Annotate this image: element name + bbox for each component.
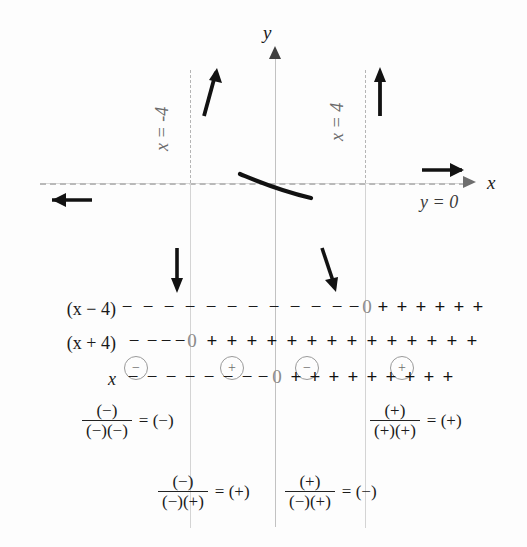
fraction-body: (+) (−)(+): [285, 473, 335, 512]
fraction-region-3: (+) (−)(+) = (−): [285, 473, 377, 512]
sign-minus: −: [119, 297, 135, 317]
sign-plus: +: [402, 367, 418, 387]
sign-minus: −: [287, 297, 303, 317]
sign-zero: 0: [269, 367, 285, 387]
sign-plus: +: [345, 367, 361, 387]
asymptote-label-x-pos4: x = 4: [327, 103, 348, 141]
sign-minus: −: [329, 297, 345, 317]
sign-minus: −: [182, 367, 198, 387]
sign-minus: −: [266, 297, 282, 317]
sign-plus: +: [384, 331, 400, 351]
sign-row-label-text: x: [108, 369, 116, 389]
y-axis-line: [275, 57, 276, 527]
sign-plus: +: [413, 297, 429, 317]
sign-minus: −: [224, 297, 240, 317]
fraction-result: = (−): [335, 482, 377, 502]
sign-plus: +: [204, 331, 220, 351]
sign-plus: +: [383, 367, 399, 387]
sign-row-x-plus-4: (x + 4) − − − − 0 + + + + + + + + + + + …: [0, 331, 527, 357]
sign-plus: +: [244, 331, 260, 351]
fraction-region-4: (+) (+)(+) = (+): [370, 402, 462, 441]
sign-plus: +: [470, 297, 486, 317]
fraction-numerator: (+): [380, 402, 409, 420]
fraction-denominator: (−)(+): [158, 491, 208, 511]
sign-minus: −: [220, 367, 236, 387]
fraction-result: = (+): [420, 411, 462, 431]
asymptote-line-x-pos4: [365, 70, 366, 183]
sign-minus: −: [245, 297, 261, 317]
sign-plus: +: [444, 331, 460, 351]
sign-zero: 0: [359, 297, 375, 317]
sign-row-x: x − − − − − − − − 0 + + + + + + + + +: [0, 367, 527, 393]
fraction-result: = (+): [208, 482, 250, 502]
sign-plus: +: [324, 331, 340, 351]
fraction-body: (−) (−)(−): [82, 402, 132, 441]
down-arrow-left-of-neg4-icon: [168, 246, 190, 296]
sign-plus: +: [326, 367, 342, 387]
horizontal-asymptote-label: y = 0: [420, 192, 458, 213]
sign-plus: +: [304, 331, 320, 351]
sign-plus: +: [264, 331, 280, 351]
fraction-region-1: (−) (−)(−) = (−): [82, 402, 174, 441]
fraction-denominator: (−)(−): [82, 420, 132, 440]
sign-minus: −: [140, 297, 156, 317]
sign-minus: −: [203, 297, 219, 317]
sign-plus: +: [364, 331, 380, 351]
sign-plus: +: [224, 331, 240, 351]
sign-plus: +: [451, 297, 467, 317]
down-arrow-left-of-pos4-icon: [318, 246, 346, 296]
sign-row-label: (x + 4): [16, 333, 116, 354]
sign-minus: −: [144, 367, 160, 387]
sign-plus: +: [344, 331, 360, 351]
sign-minus: −: [125, 367, 141, 387]
sign-zero: 0: [184, 331, 200, 351]
sign-minus: −: [161, 297, 177, 317]
sign-plus: +: [432, 297, 448, 317]
sign-minus: −: [126, 331, 142, 351]
fraction-denominator: (+)(+): [370, 420, 420, 440]
fraction-result: = (−): [132, 411, 174, 431]
sign-plus: +: [307, 367, 323, 387]
sign-plus: +: [288, 367, 304, 387]
x-axis-label: x: [487, 172, 495, 194]
fraction-region-2: (−) (−)(+) = (+): [158, 473, 250, 512]
sign-plus: +: [464, 331, 480, 351]
sign-minus: −: [201, 367, 217, 387]
diagram-canvas: y x y = 0 x = -4 x = 4: [0, 0, 527, 547]
sign-plus: +: [440, 367, 456, 387]
fraction-body: (+) (+)(+): [370, 402, 420, 441]
y-axis-arrowhead-icon: [269, 46, 281, 59]
sign-plus: +: [394, 297, 410, 317]
sign-row-x-minus-4: (x − 4) − − − − − − − − − − − − 0 + + + …: [0, 297, 527, 323]
fraction-numerator: (−): [168, 473, 197, 491]
sign-plus: +: [375, 297, 391, 317]
asymptote-line-x-neg4: [190, 70, 191, 183]
fraction-numerator: (−): [92, 402, 121, 420]
up-arrow-right-of-pos4-icon: [371, 66, 393, 122]
right-tail-arrow-icon: [418, 160, 486, 180]
fraction-denominator: (−)(+): [285, 491, 335, 511]
sign-minus: −: [239, 367, 255, 387]
sign-minus: −: [308, 297, 324, 317]
sign-plus: +: [284, 331, 300, 351]
sign-minus: −: [182, 297, 198, 317]
fraction-body: (−) (−)(+): [158, 473, 208, 512]
sign-row-label: x: [16, 369, 116, 390]
sign-plus: +: [421, 367, 437, 387]
sign-plus: +: [364, 367, 380, 387]
sign-minus: −: [163, 367, 179, 387]
sign-row-label: (x − 4): [16, 299, 116, 320]
up-arrow-right-of-neg4-icon: [196, 66, 226, 122]
y-axis-label: y: [263, 22, 271, 44]
sign-plus: +: [424, 331, 440, 351]
origin-branch-curve: [237, 168, 315, 202]
fraction-numerator: (+): [295, 473, 324, 491]
sign-plus: +: [404, 331, 420, 351]
left-tail-arrow-icon: [30, 190, 98, 210]
asymptote-label-x-neg4: x = -4: [152, 107, 173, 151]
